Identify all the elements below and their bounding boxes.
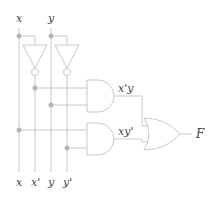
- inverter-y-bubble: [64, 69, 71, 76]
- label-and2-output: xy': [118, 125, 133, 138]
- wire-and2-to-or: [114, 139, 152, 142]
- inverter-x-body: [23, 45, 47, 68]
- bottom-label-y: y: [47, 176, 55, 189]
- input-label-x: x: [16, 12, 23, 25]
- output-label-f: F: [195, 127, 205, 141]
- bottom-label-x: x: [16, 176, 23, 189]
- wire-y-to-inverter: [51, 36, 67, 45]
- logic-circuit-diagram: x y x'y xy' F x x' y y': [0, 0, 218, 197]
- input-label-y: y: [47, 12, 55, 25]
- and-gate-2: [87, 123, 114, 155]
- junction-dot-x-and2: [17, 128, 22, 133]
- and-gate-1: [87, 80, 114, 112]
- inverter-x: [23, 45, 47, 76]
- junction-dot-ynot: [65, 146, 70, 151]
- inverter-y: [55, 45, 79, 76]
- junction-dot-y: [49, 34, 54, 39]
- junction-dot-y-and1: [49, 103, 54, 108]
- junction-dot-x: [17, 34, 22, 39]
- or-gate: [144, 118, 180, 150]
- bottom-label-y-not: y': [62, 176, 72, 189]
- label-and1-output: x'y: [118, 82, 134, 95]
- inverter-y-body: [55, 45, 79, 68]
- inverter-x-bubble: [32, 69, 39, 76]
- wire-x-to-inverter: [19, 36, 35, 45]
- junction-dot-xnot: [33, 86, 38, 91]
- bottom-label-x-not: x': [31, 176, 40, 189]
